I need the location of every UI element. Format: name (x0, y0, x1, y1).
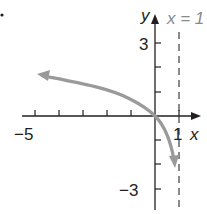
graph: y x = 1 3 −3 −5 1 x (0, 0, 207, 214)
bullet-dot (0, 13, 3, 16)
x-tick-label-1: 1 (173, 125, 182, 144)
x-tick-label-neg5: −5 (14, 125, 33, 144)
asymptote-label: x = 1 (166, 9, 204, 28)
curve-left-arrow-icon (37, 70, 50, 81)
y-axis-label: y (140, 6, 151, 25)
y-tick-label-3: 3 (139, 35, 148, 54)
x-axis-arrow-icon (191, 112, 201, 120)
y-tick-label-neg3: −3 (119, 181, 138, 200)
x-ticks (35, 110, 179, 116)
x-axis-label: x (189, 125, 199, 144)
y-axis-arrow-icon (151, 14, 159, 24)
curve-down-arrow-icon (169, 155, 179, 168)
